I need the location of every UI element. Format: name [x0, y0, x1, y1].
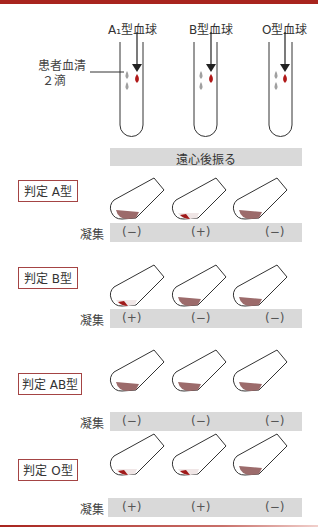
aggregation-label: 凝集	[80, 414, 104, 431]
result-o-3: (−)	[265, 500, 284, 514]
result-o-1: (+)	[122, 500, 141, 514]
result-o-2: (+)	[191, 500, 210, 514]
result-b-3: (−)	[265, 311, 284, 325]
judgment-label-ab: 判定 AB型	[18, 373, 82, 395]
footer-divider	[0, 525, 318, 527]
result-ab-2: (−)	[191, 414, 210, 428]
judgment-label-a: 判定 A型	[18, 180, 78, 202]
result-b-2: (−)	[191, 311, 210, 325]
judgment-label-o: 判定 O型	[18, 459, 78, 481]
result-a-3: (−)	[265, 225, 284, 239]
result-ab-3: (−)	[265, 414, 284, 428]
aggregation-label: 凝集	[80, 225, 104, 242]
result-a-2: (+)	[191, 225, 210, 239]
result-ab-1: (−)	[122, 414, 141, 428]
result-a-1: (−)	[122, 225, 141, 239]
aggregation-label: 凝集	[80, 311, 104, 328]
tilted-tubes	[0, 0, 318, 531]
result-b-1: (+)	[122, 311, 141, 325]
judgment-label-b: 判定 B型	[18, 267, 78, 289]
aggregation-label: 凝集	[80, 500, 104, 517]
